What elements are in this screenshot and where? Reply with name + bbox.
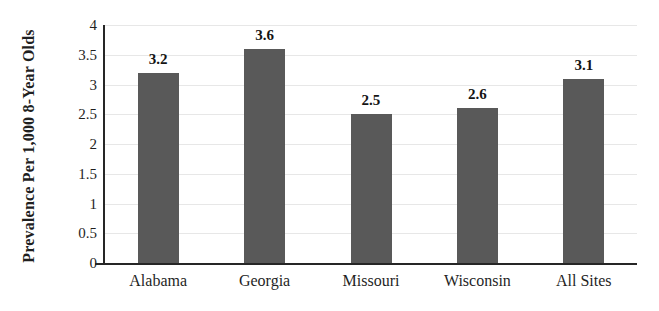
bar-value-label: 2.5 <box>318 91 424 109</box>
y-tick-label: 1 <box>45 195 97 213</box>
x-axis-label: Missouri <box>318 270 424 292</box>
y-axis-line <box>103 25 105 265</box>
x-axis-labels: AlabamaGeorgiaMissouriWisconsinAll Sites <box>105 270 637 296</box>
bar-value-label: 2.6 <box>424 85 530 103</box>
bar-value-label: 3.2 <box>105 50 211 68</box>
y-tick-label: 2.5 <box>45 105 97 123</box>
gridline <box>105 85 637 86</box>
plot-area: 3.23.62.52.63.1 <box>105 25 637 263</box>
bar-value-label: 3.6 <box>211 26 317 44</box>
y-tick-label: 4 <box>45 16 97 34</box>
x-axis-label: Alabama <box>105 270 211 292</box>
y-axis-tick-labels: 00.511.522.533.54 <box>45 25 97 263</box>
x-axis-label: All Sites <box>531 270 637 292</box>
y-tick-label: 3 <box>45 76 97 94</box>
bar-georgia <box>244 49 285 263</box>
y-tick-label: 2 <box>45 135 97 153</box>
x-axis-label: Georgia <box>211 270 317 292</box>
x-axis-label: Wisconsin <box>424 270 530 292</box>
gridline <box>105 25 637 26</box>
y-tick-label: 0 <box>45 254 97 272</box>
bar-all-sites <box>563 79 604 263</box>
bar-missouri <box>351 114 392 263</box>
y-tick-label: 1.5 <box>45 165 97 183</box>
bar-alabama <box>138 73 179 263</box>
bar-wisconsin <box>457 108 498 263</box>
y-tick-label: 3.5 <box>45 46 97 64</box>
x-axis-line <box>95 263 637 265</box>
bar-chart: Prevalence Per 1,000 8-Year Olds 00.511.… <box>0 0 659 311</box>
y-axis-title: Prevalence Per 1,000 8-Year Olds <box>20 6 44 286</box>
bar-value-label: 3.1 <box>531 56 637 74</box>
y-tick-label: 0.5 <box>45 224 97 242</box>
